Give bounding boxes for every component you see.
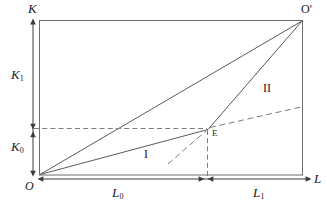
axis-segment-label-L0: L0 <box>112 186 123 201</box>
origin-label-O-prime: O' <box>301 3 312 15</box>
region-label-I: I <box>144 148 148 160</box>
l0-right-arrow <box>199 176 205 182</box>
k0-lower-arrow <box>30 171 36 177</box>
diagram-svg <box>0 0 327 209</box>
dashed-line-through-E <box>168 131 206 164</box>
k0-upper-arrow <box>30 132 36 138</box>
point-label-E: E <box>212 129 218 138</box>
ray-E-to-Oprime <box>208 21 302 130</box>
axis-segment-label-K0: K0 <box>11 140 24 155</box>
figure-canvas: K K1 K0 O L0 L1 L O' E I II <box>0 0 327 209</box>
l-axis-arrow-right <box>306 176 312 182</box>
l0-subscript: 0 <box>119 192 123 201</box>
origin-label-O: O <box>25 180 34 192</box>
diagonal-O-to-Oprime <box>40 21 302 175</box>
l1-left-arrow <box>208 176 214 182</box>
dashed-line-through-E-upper <box>210 107 301 128</box>
region-label-II: II <box>263 82 271 94</box>
axis-segment-label-L1: L1 <box>253 186 264 201</box>
axis-segment-label-K1: K1 <box>11 68 24 83</box>
k1-subscript: 1 <box>20 74 24 83</box>
l0-left-arrow <box>38 176 44 182</box>
k-axis-arrow-top <box>30 19 36 25</box>
k0-subscript: 0 <box>20 146 24 155</box>
l1-subscript: 1 <box>260 192 264 201</box>
ray-O-to-E <box>40 130 208 175</box>
axis-label-L: L <box>314 172 321 185</box>
axis-label-K: K <box>28 2 37 15</box>
